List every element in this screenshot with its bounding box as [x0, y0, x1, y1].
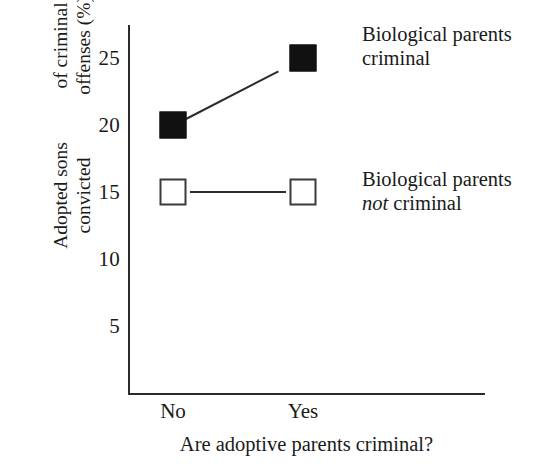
x-axis-line — [128, 393, 485, 395]
legend-not-criminal-line1: Biological parents — [362, 167, 552, 191]
y-tick-15: 15 — [84, 182, 120, 203]
x-tick-label-yes: Yes — [243, 399, 363, 424]
legend-entry-criminal: Biological parents criminal — [362, 22, 552, 70]
y-tick-label-20: 20 — [84, 115, 120, 136]
data-point-criminal-no — [160, 112, 187, 139]
y-tick-20: 20 — [84, 115, 120, 136]
legend-not-criminal-line2: not criminal — [362, 191, 552, 215]
legend-not-criminal-emphasis: not — [362, 192, 388, 214]
y-tick-5: 5 — [84, 316, 120, 337]
legend-criminal-line1: Biological parents — [362, 22, 552, 46]
data-point-not-criminal-no — [160, 179, 187, 206]
data-point-criminal-yes — [290, 45, 317, 72]
series-not-criminal-connector — [190, 191, 286, 193]
x-axis-title: Are adoptive parents criminal? — [128, 432, 485, 456]
y-tick-label-15: 15 — [84, 182, 120, 203]
y-tick-label-10: 10 — [84, 249, 120, 270]
x-tick-label-no: No — [113, 399, 233, 424]
y-axis-line — [128, 25, 130, 395]
legend-criminal-line2: criminal — [362, 46, 552, 70]
data-point-not-criminal-yes — [290, 179, 317, 206]
y-tick-label-5: 5 — [84, 316, 120, 337]
legend-not-criminal-rest: criminal — [388, 192, 461, 214]
y-tick-label-25: 25 — [84, 48, 120, 69]
interaction-plot: Adopted sons convicted of criminal offen… — [0, 0, 556, 469]
y-tick-25: 25 — [84, 48, 120, 69]
legend-entry-not-criminal: Biological parents not criminal — [362, 167, 552, 215]
y-tick-10: 10 — [84, 249, 120, 270]
series-criminal-connector — [186, 70, 279, 119]
